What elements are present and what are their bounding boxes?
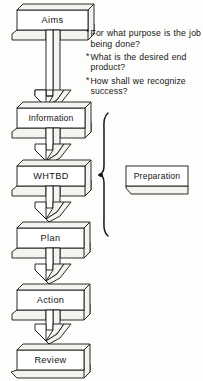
list-item-text: For what purpose is the job being done? xyxy=(91,28,203,49)
grouping-brace-point xyxy=(99,173,103,177)
flow-box-label-action: Action xyxy=(37,295,65,305)
flow-diagram: .stroke { stroke:#141414; stroke-width:0… xyxy=(0,0,203,381)
flow-box-label-plan: Plan xyxy=(41,233,61,243)
flow-box-label-aims: Aims xyxy=(42,15,64,25)
bullet-mark-icon: * xyxy=(86,75,89,86)
bullet-mark-icon: * xyxy=(86,27,89,38)
flow-box-label-whtbd: WHTBD xyxy=(33,171,68,181)
list-item: * What is the desired end product? xyxy=(86,52,202,73)
list-item: * For what purpose is the job being done… xyxy=(86,28,202,49)
bullet-mark-icon: * xyxy=(86,51,89,62)
question-bullet-list: * For what purpose is the job being done… xyxy=(86,28,202,99)
list-item-text: How shall we recognize success? xyxy=(91,76,203,97)
flow-box-label-information: Information xyxy=(28,113,73,123)
list-item-text: What is the desired end product? xyxy=(91,52,203,73)
arrow-aims-to-information xyxy=(35,30,71,110)
list-item: * How shall we recognize success? xyxy=(86,76,202,97)
side-box-label-preparation: Preparation xyxy=(134,171,181,181)
flow-box-label-review: Review xyxy=(34,355,66,365)
